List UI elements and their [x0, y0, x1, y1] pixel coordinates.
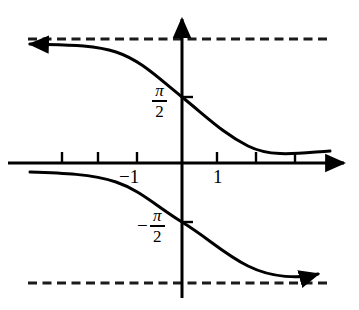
arccot-lower-branch-curve: [30, 172, 318, 277]
negative-pi-over-two-fraction: π 2: [150, 207, 165, 245]
x-axis-label-one: 1: [213, 167, 223, 186]
pi-over-two-fraction: π 2: [152, 82, 167, 120]
plot-canvas: [0, 0, 359, 310]
y-axis-label-negative-pi-over-two: − π 2: [137, 207, 165, 245]
arccot-graph-figure: −1 1 π 2 − π 2: [0, 0, 359, 310]
pi-over-two-denominator: 2: [153, 102, 166, 120]
y-axis-label-pi-over-two: π 2: [152, 82, 167, 120]
arccot-principal-branch-curve: [30, 44, 330, 154]
negative-pi-over-two-minus-sign: −: [137, 216, 150, 235]
negative-pi-over-two-denominator: 2: [151, 227, 164, 245]
pi-over-two-numerator: π: [153, 82, 166, 100]
negative-pi-over-two-numerator: π: [151, 207, 164, 225]
x-axis-label-minus-one: −1: [119, 167, 139, 186]
